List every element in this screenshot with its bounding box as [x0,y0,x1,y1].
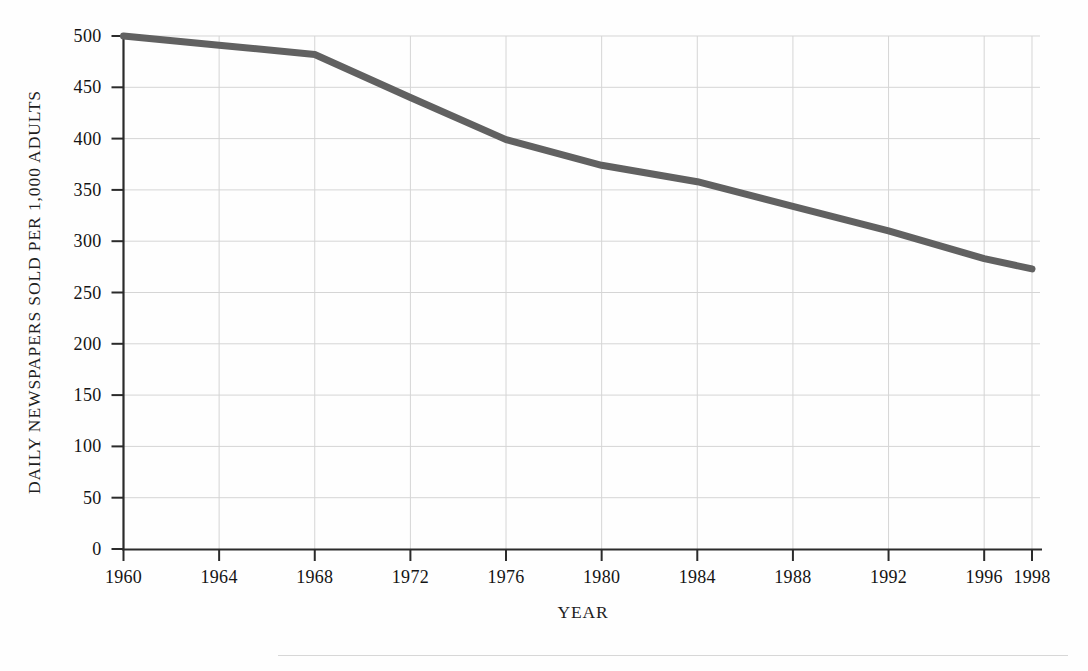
axes-group [122,33,1042,550]
cropped-caption-remnant [150,0,770,9]
y-axis-title: DAILY NEWSPAPERS SOLD PER 1,000 ADULTS [24,90,44,494]
footer-divider [278,655,1068,656]
x-axis-tick-label: 1960 [105,567,142,587]
y-axis-tick-label: 200 [74,334,102,354]
x-axis-tick-label: 1998 [1013,567,1050,587]
x-axis-tick-label: 1988 [774,567,811,587]
y-axis-tick-label: 400 [74,129,102,149]
x-axis-tick-label: 1964 [201,567,238,587]
y-axis-tick-label: 100 [74,436,102,456]
y-axis-tick-label: 250 [74,283,102,303]
x-axis-tick-label: 1980 [583,567,620,587]
y-axis-tick-label: 150 [74,385,102,405]
x-axis-tick-labels-group: 1960196419681972197619801984198819921996… [105,567,1051,587]
y-axis-tick-labels-group: 050100150200250300350400450500 [74,26,102,559]
y-axis-tick-label: 50 [83,488,102,508]
y-axis-tick-label: 300 [74,231,102,251]
data-series-line [124,36,1033,269]
x-axis-tick-label: 1984 [679,567,716,587]
x-axis-title: YEAR [557,602,608,622]
x-axis-tick-label: 1992 [870,567,907,587]
y-axis-tick-label: 350 [74,180,102,200]
y-axis-ticks-group [112,36,124,549]
y-axis-tick-label: 500 [74,26,102,46]
x-axis-tick-label: 1968 [296,567,333,587]
x-axis-tick-label: 1976 [487,567,524,587]
line-chart: 050100150200250300350400450500 196019641… [0,0,1088,671]
y-axis-tick-label: 450 [74,77,102,97]
chart-figure: 050100150200250300350400450500 196019641… [0,0,1088,671]
x-axis-tick-label: 1996 [966,567,1003,587]
y-axis-tick-label: 0 [92,539,101,559]
x-axis-ticks-group [124,549,1033,561]
x-axis-tick-label: 1972 [392,567,429,587]
gridlines-group [124,36,1041,549]
